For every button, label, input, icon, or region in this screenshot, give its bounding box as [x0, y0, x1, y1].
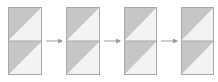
diagram-canvas: [0, 0, 218, 82]
block-3: [124, 7, 157, 75]
block-4: [181, 7, 214, 75]
block-1: [8, 7, 42, 75]
block-2: [66, 7, 100, 75]
block-sequence-diagram: [0, 0, 218, 82]
